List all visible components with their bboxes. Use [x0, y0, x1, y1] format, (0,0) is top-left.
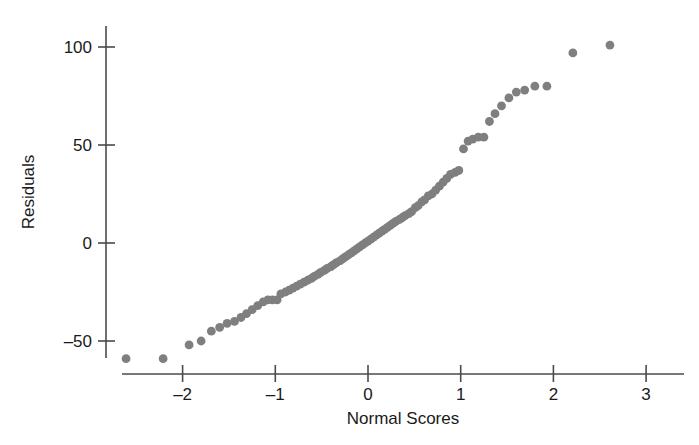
data-point [530, 82, 539, 91]
data-point [543, 82, 552, 91]
data-point [479, 133, 488, 142]
data-point [207, 327, 216, 336]
data-points [122, 41, 615, 363]
figure-container: –50050100 –2–10123 Normal Scores Residua… [0, 0, 699, 445]
x-tick-label: 0 [363, 385, 372, 404]
data-point [215, 323, 224, 332]
x-tick-label: 3 [641, 385, 650, 404]
y-axis-ticks: –50050100 [64, 38, 115, 351]
data-point [223, 319, 232, 328]
x-tick-label: –1 [266, 385, 285, 404]
y-tick-label: 50 [73, 136, 92, 155]
data-point [568, 48, 577, 57]
data-point [485, 117, 494, 126]
data-point [497, 101, 506, 110]
data-point [197, 337, 206, 346]
data-point [159, 354, 168, 363]
y-tick-label: 0 [83, 234, 92, 253]
x-axis-title: Normal Scores [347, 409, 459, 428]
data-point [512, 88, 521, 97]
x-tick-label: 1 [456, 385, 465, 404]
data-point [454, 166, 463, 175]
x-tick-label: 2 [549, 385, 558, 404]
data-point [459, 145, 468, 154]
data-point [520, 86, 529, 95]
data-point [185, 341, 194, 350]
y-axis-title: Residuals [19, 155, 38, 230]
data-point [122, 354, 131, 363]
x-tick-label: –2 [173, 385, 192, 404]
y-tick-label: –50 [64, 332, 92, 351]
y-tick-label: 100 [64, 38, 92, 57]
scatter-plot: –50050100 –2–10123 Normal Scores Residua… [0, 0, 699, 445]
data-point [505, 94, 514, 103]
x-axis-ticks: –2–10123 [173, 365, 651, 404]
data-point [491, 109, 500, 118]
data-point [606, 41, 615, 50]
